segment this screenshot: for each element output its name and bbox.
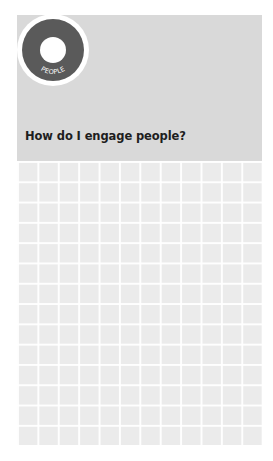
svg-text:PEOPLE: PEOPLE [39,65,66,76]
badge-text: PEOPLE [39,65,66,76]
note-grid-area[interactable] [17,161,262,445]
page-title: How do I engage people? [25,129,186,143]
badge-center [40,37,66,63]
